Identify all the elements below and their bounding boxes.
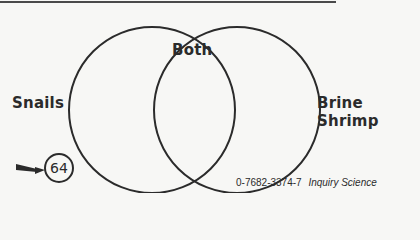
brine-shrimp-label: Brine Shrimp (317, 94, 420, 130)
page-number-text: 64 (50, 160, 68, 176)
publication-title: Inquiry Science (308, 177, 376, 188)
snails-label: Snails (12, 94, 64, 112)
page-number: 64 (44, 153, 74, 183)
pointer-icon (15, 161, 47, 177)
footer: 0-7682-3374-7 Inquiry Science (236, 177, 377, 188)
both-label: Both (172, 41, 212, 59)
isbn: 0-7682-3374-7 (236, 177, 302, 188)
